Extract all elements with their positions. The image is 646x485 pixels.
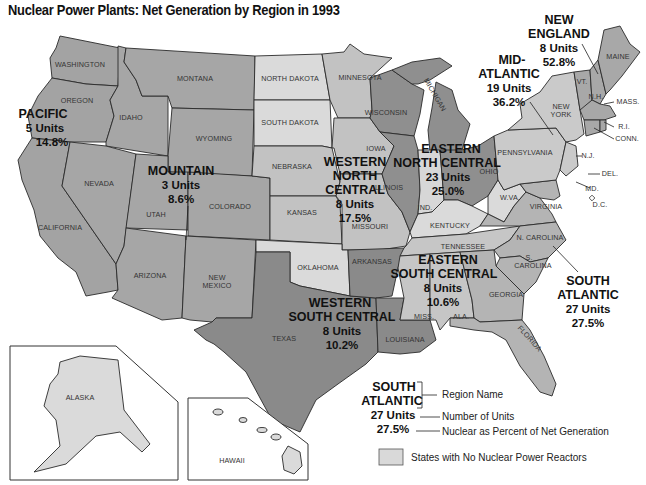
label-tennessee: TENNESSEE xyxy=(441,242,486,251)
label-maine: MAINE xyxy=(606,52,629,61)
label-wisconsin: WISCONSIN xyxy=(365,108,407,117)
label-alaska: ALASKA xyxy=(66,393,95,402)
wsc-units: 8 Units xyxy=(323,325,361,337)
mountain-name: MOUNTAIN xyxy=(148,164,214,178)
legend-example-percent: 27.5% xyxy=(377,423,410,435)
label-idaho: IDAHO xyxy=(119,113,143,122)
label-west-virginia: W.VA. xyxy=(500,193,520,202)
state-kansas xyxy=(270,196,342,244)
label-north-carolina: N. CAROLINA xyxy=(516,233,563,242)
label-massachusetts: MASS. xyxy=(617,97,640,106)
wnc-units: 8 Units xyxy=(336,198,374,210)
label-arizona: ARIZONA xyxy=(134,271,167,280)
label-hawaii: HAWAII xyxy=(219,456,245,465)
label-pennsylvania: PENNSYLVANIA xyxy=(497,148,552,157)
esc-percent: 10.6% xyxy=(427,296,460,308)
ma-name-line1: MID- xyxy=(498,53,525,67)
pacific-units: 5 Units xyxy=(26,122,64,134)
label-california: CALIFORNIA xyxy=(38,223,82,232)
enc-name-line2: NORTH CENTRAL xyxy=(393,156,501,170)
ne-name-line2: ENGLAND xyxy=(528,27,590,41)
us-map: WASHINGTON OREGON CALIFORNIA IDAHO NEVAD… xyxy=(0,0,646,485)
wnc-name-line3: CENTRAL xyxy=(325,183,385,197)
label-indiana: IND. xyxy=(418,203,433,212)
legend-example-units: 27 Units xyxy=(371,409,416,421)
label-oregon: OREGON xyxy=(61,96,94,105)
label-minnesota: MINNESOTA xyxy=(338,73,381,82)
state-connecticut xyxy=(584,120,600,136)
legend-no-reactors-swatch xyxy=(379,449,403,465)
state-florida xyxy=(450,318,556,396)
sa-percent: 27.5% xyxy=(572,317,605,329)
esc-name-line1: EASTERN xyxy=(418,253,478,267)
pacific-name: PACIFIC xyxy=(18,107,67,121)
legend-region-name-label: Region Name xyxy=(442,389,504,400)
label-alabama: ALA. xyxy=(453,312,469,321)
wnc-name-line2: NORTH xyxy=(333,169,377,183)
mountain-units: 3 Units xyxy=(162,179,200,191)
label-colorado: COLORADO xyxy=(209,202,251,211)
mountain-percent: 8.6% xyxy=(168,193,194,205)
label-arkansas: ARKANSAS xyxy=(352,257,392,266)
sa-name-line2: ATLANTIC xyxy=(557,288,619,302)
label-dc: D.C. xyxy=(593,200,608,209)
legend-example-name-line2: ATLANTIC xyxy=(361,394,423,408)
state-rhode-island xyxy=(600,120,606,132)
wsc-percent: 10.2% xyxy=(326,339,359,351)
label-mississippi: MISS. xyxy=(414,312,434,321)
label-texas: TEXAS xyxy=(272,334,296,343)
label-kansas: KANSAS xyxy=(287,208,317,217)
label-virginia: VIRGINIA xyxy=(530,202,562,211)
legend-percent-label: Nuclear as Percent of Net Generation xyxy=(442,426,609,437)
legend-example-name-line1: SOUTH xyxy=(372,380,416,394)
label-nevada: NEVADA xyxy=(84,179,114,188)
label-new-mexico-line2: MEXICO xyxy=(203,281,232,290)
sa-units: 27 Units xyxy=(566,303,611,315)
label-connecticut: CONN. xyxy=(615,134,639,143)
ma-units: 19 Units xyxy=(487,82,532,94)
wsc-name-line2: SOUTH CENTRAL xyxy=(289,310,396,324)
label-new-jersey: N.J. xyxy=(581,151,594,160)
enc-units: 23 Units xyxy=(426,171,471,183)
label-new-york-line2: YORK xyxy=(551,110,572,119)
wnc-percent: 17.5% xyxy=(339,212,372,224)
label-louisiana: LOUISIANA xyxy=(385,335,424,344)
ne-name-line1: NEW xyxy=(544,13,573,27)
enc-percent: 25.0% xyxy=(432,185,465,197)
label-vermont: VT. xyxy=(577,77,588,86)
label-washington: WASHINGTON xyxy=(55,60,105,69)
label-nebraska: NEBRASKA xyxy=(272,162,312,171)
label-south-dakota: SOUTH DAKOTA xyxy=(261,118,318,127)
label-georgia: GEORGIA xyxy=(489,290,523,299)
enc-name-line1: EASTERN xyxy=(421,142,481,156)
ma-name-line2: ATLANTIC xyxy=(478,67,540,81)
label-utah: UTAH xyxy=(146,210,165,219)
label-delaware: DEL. xyxy=(602,169,618,178)
label-wyoming: WYOMING xyxy=(196,134,233,143)
ma-percent: 36.2% xyxy=(493,96,526,108)
esc-units: 8 Units xyxy=(424,282,462,294)
ne-units: 8 Units xyxy=(540,42,578,54)
label-oklahoma: OKLAHOMA xyxy=(297,263,339,272)
ne-percent: 52.8% xyxy=(543,56,576,68)
label-maryland: MD. xyxy=(585,184,598,193)
label-south-carolina-line2: CAROLINA xyxy=(514,261,552,270)
label-rhode-island: R.I. xyxy=(618,122,630,131)
sa-name-line1: SOUTH xyxy=(566,274,610,288)
legend: SOUTH ATLANTIC 27 Units 27.5% Region Nam… xyxy=(361,380,609,465)
legend-units-label: Number of Units xyxy=(442,411,514,422)
label-iowa: IOWA xyxy=(366,144,385,153)
esc-name-line2: SOUTH CENTRAL xyxy=(391,267,498,281)
pacific-percent: 14.8% xyxy=(36,136,69,148)
label-north-dakota: NORTH DAKOTA xyxy=(261,74,319,83)
label-kentucky: KENTUCKY xyxy=(430,221,470,230)
wnc-name-line1: WESTERN xyxy=(324,155,387,169)
label-new-hampshire: N.H. xyxy=(589,92,604,101)
label-montana: MONTANA xyxy=(177,74,213,83)
legend-no-reactors-label: States with No Nuclear Power Reactors xyxy=(411,452,587,463)
wsc-name-line1: WESTERN xyxy=(309,296,372,310)
